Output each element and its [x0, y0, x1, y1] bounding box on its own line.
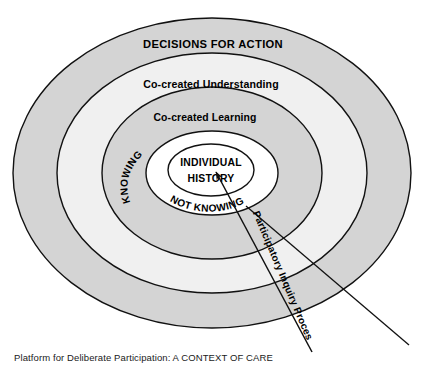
core-label-line-2: HISTORY [187, 173, 234, 184]
ring-individual-history [168, 144, 254, 196]
core-ellipse-shape [168, 144, 254, 196]
core-label-line-1: INDIVIDUAL [180, 157, 242, 168]
ring-label-decisions-for-action: DECISIONS FOR ACTION [143, 38, 283, 50]
diagram-container: DECISIONS FOR ACTION Co-created Understa… [0, 0, 427, 383]
ring-label-co-created-understanding: Co-created Understanding [143, 78, 278, 90]
diagram-caption: Platform for Deliberate Participation: A… [14, 352, 273, 363]
concentric-ellipse-diagram: DECISIONS FOR ACTION Co-created Understa… [0, 0, 427, 383]
ring-label-co-created-learning: Co-created Learning [154, 112, 257, 123]
